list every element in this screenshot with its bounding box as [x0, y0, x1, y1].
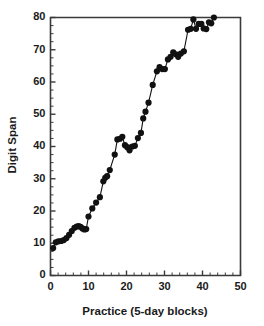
y-tick-label: 70 [33, 43, 45, 55]
data-point [85, 213, 91, 219]
data-point [50, 245, 56, 251]
data-point [145, 100, 151, 106]
y-tick-label: 10 [33, 236, 45, 248]
data-point [208, 20, 214, 26]
data-point [150, 82, 156, 88]
x-tick-label: 30 [158, 280, 170, 292]
data-point [119, 134, 125, 140]
data-point [190, 16, 196, 22]
data-point [188, 26, 194, 32]
data-point [89, 205, 95, 211]
y-tick-label: 0 [39, 268, 45, 280]
x-tick-label: 10 [82, 280, 94, 292]
y-tick-label: 40 [33, 139, 45, 151]
data-point [132, 143, 138, 149]
y-tick-label: 60 [33, 75, 45, 87]
data-point [162, 66, 168, 72]
y-tick-label: 80 [33, 10, 45, 22]
data-point [140, 115, 146, 121]
x-axis-title: Practice (5-day blocks) [82, 305, 207, 317]
y-tick-label: 50 [33, 107, 45, 119]
digit-span-practice-chart: 01020304050 01020304050607080 Practice (… [0, 0, 264, 326]
y-tick-label: 30 [33, 172, 45, 184]
chart-container: 01020304050 01020304050607080 Practice (… [0, 0, 264, 326]
x-tick-label: 20 [120, 280, 132, 292]
data-point [107, 167, 113, 173]
data-point [93, 200, 99, 206]
data-point [97, 194, 103, 200]
x-tick-label: 0 [47, 280, 53, 292]
data-point [138, 130, 144, 136]
y-axis-tick-labels: 01020304050607080 [33, 10, 45, 280]
data-point [83, 226, 89, 232]
x-tick-label: 40 [196, 280, 208, 292]
data-point [203, 26, 209, 32]
y-axis-title: Digit Span [6, 117, 18, 174]
data-point [181, 48, 187, 54]
data-point [211, 14, 217, 20]
y-tick-label: 20 [33, 204, 45, 216]
data-point [142, 109, 148, 115]
data-point [104, 173, 110, 179]
data-point [112, 151, 118, 157]
x-tick-label: 50 [234, 280, 246, 292]
data-point [135, 135, 141, 141]
